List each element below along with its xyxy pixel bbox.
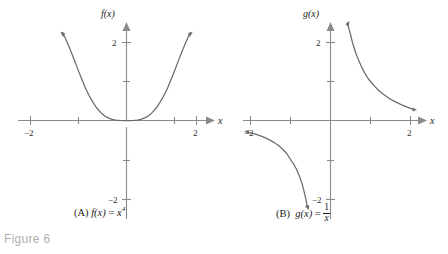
panel-a-caption: (A) f(x) = x4	[74, 206, 125, 218]
panel-a-caption-label: (A)	[74, 207, 89, 218]
panel-a-ytick-label-neg2: −2	[108, 195, 118, 205]
panel-b-caption-function: g(x)	[295, 208, 312, 219]
panel-b-caption-fraction: 1x	[323, 203, 330, 224]
panel-b-xtick-label-pos2: 2	[407, 128, 412, 138]
panel-a-x-axis-arrow	[206, 117, 215, 125]
panel-b-caption-fraction-denominator: x	[323, 214, 330, 224]
panel-a-ytick-label-pos2: 2	[112, 38, 117, 48]
panel-b-positive-branch-upper-arrow	[345, 21, 349, 26]
panel-b-x-axis-arrow	[418, 117, 427, 125]
panel-b-y-axis-label: g(x)	[303, 8, 320, 20]
panel-b-y-axis-arrow	[327, 22, 335, 31]
panel-a-caption-expression-exponent: 4	[122, 205, 126, 213]
panel-b-graph: g(x) x −2 2 2 −2	[243, 8, 435, 219]
figure-number-caption: Figure 6	[4, 232, 50, 246]
panel-b-x-axis-label: x	[429, 115, 435, 126]
panel-b-xtick-label-neg2: −2	[244, 128, 254, 138]
figure-graphics: f(x) x −2 2 2 −2	[0, 0, 448, 254]
panel-a-y-axis-arrow	[123, 22, 131, 31]
panel-a-graph: f(x) x −2 2 2 −2	[18, 8, 223, 219]
panel-b-ytick-label-pos2: 2	[316, 38, 321, 48]
figure-container: f(x) x −2 2 2 −2	[0, 0, 448, 254]
panel-b-curve-negative-branch	[247, 132, 308, 208]
panel-a-caption-function: f(x)	[91, 207, 106, 218]
panel-b-caption-fraction-numerator: 1	[323, 203, 330, 213]
panel-b-positive-branch-right-arrow	[412, 107, 417, 111]
panel-b-caption: (B) g(x) = 1x	[276, 204, 330, 225]
panel-b-curve-positive-branch	[347, 23, 414, 109]
panel-a-xtick-label-neg2: −2	[24, 128, 34, 138]
panel-a-y-axis-label: f(x)	[101, 8, 116, 20]
panel-a-xtick-label-pos2: 2	[193, 128, 198, 138]
panel-a-x-axis-label: x	[217, 115, 223, 126]
panel-b-caption-label: (B)	[276, 208, 290, 219]
